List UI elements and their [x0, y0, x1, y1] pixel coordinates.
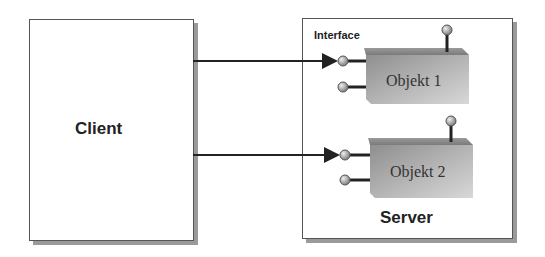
objekt2-label: Objekt 2 [390, 163, 446, 181]
objekt1-component [338, 25, 469, 104]
objekt2-component [340, 116, 473, 198]
diagram-graphics: Objekt 1 Objekt 2 [0, 0, 545, 257]
objekt1-label: Objekt 1 [386, 72, 442, 90]
